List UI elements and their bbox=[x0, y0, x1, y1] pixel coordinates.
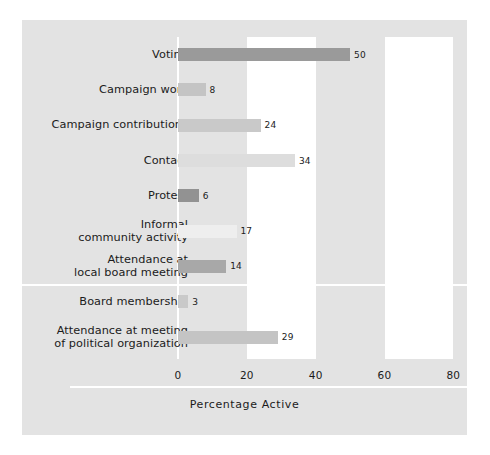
bar-value-label: 34 bbox=[299, 155, 311, 168]
bar bbox=[178, 119, 261, 132]
bar-row: Attendance at meeting of political organ… bbox=[22, 319, 467, 354]
bar-value-label: 24 bbox=[265, 119, 277, 132]
bar-row: Contact34 bbox=[22, 143, 467, 178]
x-tick-label: 40 bbox=[309, 369, 323, 381]
x-tick-label: 20 bbox=[240, 369, 254, 381]
x-axis-title: Percentage Active bbox=[22, 398, 467, 411]
x-tick-label: 60 bbox=[378, 369, 392, 381]
category-label: Campaign work bbox=[99, 83, 188, 97]
category-label: Campaign contributions bbox=[52, 118, 188, 132]
group-separator bbox=[22, 284, 467, 286]
bar bbox=[178, 48, 350, 61]
category-label: Informal community activity bbox=[78, 218, 188, 245]
x-axis-line bbox=[70, 386, 467, 388]
bar-row: Protest6 bbox=[22, 178, 467, 213]
bar bbox=[178, 331, 278, 344]
bar bbox=[178, 154, 295, 167]
chart-panel: Voting50Campaign work8Campaign contribut… bbox=[22, 20, 467, 435]
bar-row: Campaign contributions24 bbox=[22, 108, 467, 143]
bar-row: Attendance at local board meeting14 bbox=[22, 249, 467, 284]
bar-value-label: 17 bbox=[241, 225, 253, 238]
bar bbox=[178, 83, 206, 96]
bar bbox=[178, 189, 199, 202]
bar-row: Informal community activity17 bbox=[22, 214, 467, 249]
bar bbox=[178, 225, 237, 238]
bar bbox=[178, 295, 188, 308]
category-label: Board membership bbox=[79, 295, 188, 309]
x-tick-label: 0 bbox=[175, 369, 182, 381]
category-label: Attendance at meeting of political organ… bbox=[54, 324, 188, 351]
bar-value-label: 50 bbox=[354, 49, 366, 62]
bar-row: Board membership3 bbox=[22, 284, 467, 319]
bar-value-label: 6 bbox=[203, 190, 209, 203]
bar-value-label: 8 bbox=[210, 84, 216, 97]
bar-row: Voting50 bbox=[22, 37, 467, 72]
figure: Voting50Campaign work8Campaign contribut… bbox=[0, 0, 490, 455]
bar-value-label: 3 bbox=[192, 296, 198, 309]
bar-value-label: 14 bbox=[230, 260, 242, 273]
bar-value-label: 29 bbox=[282, 331, 294, 344]
bar-row: Campaign work8 bbox=[22, 72, 467, 107]
x-tick-label: 80 bbox=[446, 369, 460, 381]
category-label: Attendance at local board meeting bbox=[74, 253, 188, 280]
bar bbox=[178, 260, 226, 273]
